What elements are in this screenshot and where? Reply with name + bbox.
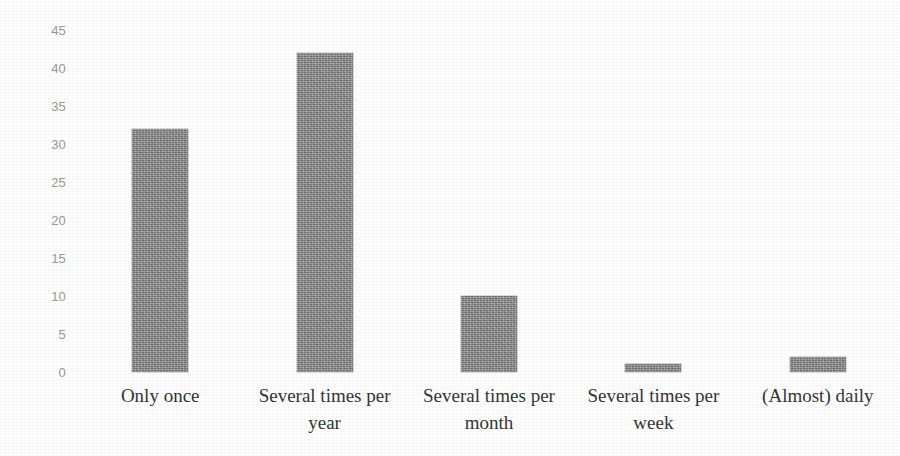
bar-slot (571, 0, 735, 372)
x-axis-category-label: Several times per week (571, 382, 735, 436)
y-axis-tick-label: 30 (51, 137, 66, 152)
bar-slot (78, 0, 242, 372)
y-axis-tick-label: 10 (51, 289, 66, 304)
y-axis-tick-label: 45 (51, 23, 66, 38)
x-axis: Only onceSeveral times per yearSeveral t… (78, 372, 900, 456)
bar[interactable] (297, 53, 353, 372)
y-axis-tick-label: 25 (51, 175, 66, 190)
y-axis-tick-label: 5 (59, 327, 66, 342)
x-axis-category-label: (Almost) daily (736, 382, 900, 409)
y-axis-tick-label: 0 (59, 365, 66, 380)
bar-slot (242, 0, 406, 372)
y-axis-tick-label: 20 (51, 213, 66, 228)
y-axis-tick-label: 35 (51, 99, 66, 114)
x-axis-category-label: Several times per month (407, 382, 571, 436)
y-axis: 454035302520151050 (0, 0, 78, 456)
bar-chart: 454035302520151050 Only onceSeveral time… (0, 0, 900, 456)
bar[interactable] (132, 129, 188, 372)
x-axis-category-label: Only once (78, 382, 242, 409)
bar-slot (407, 0, 571, 372)
bar[interactable] (790, 357, 846, 372)
bar[interactable] (461, 296, 517, 372)
y-axis-tick-label: 40 (51, 61, 66, 76)
plot-area (78, 0, 900, 372)
y-axis-tick-label: 15 (51, 251, 66, 266)
bar-slot (736, 0, 900, 372)
bar[interactable] (625, 364, 681, 372)
x-axis-category-label: Several times per year (242, 382, 406, 436)
